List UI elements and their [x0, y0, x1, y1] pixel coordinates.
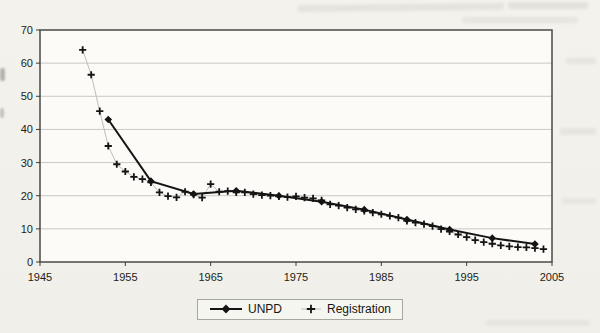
scanned-chart-page: 0102030405060701945195519651975198519952… — [0, 0, 600, 333]
x-tick-label: 1965 — [198, 271, 222, 283]
legend-item-unpd: UNPD — [209, 302, 282, 316]
chart-legend: UNPD Registration — [197, 299, 403, 320]
plot-area — [40, 30, 552, 262]
x-tick-label: 1985 — [369, 271, 393, 283]
unpd-line-diamond-icon — [209, 303, 243, 315]
x-tick-label: 1995 — [454, 271, 478, 283]
x-tick-label: 2005 — [540, 271, 564, 283]
y-tick-label: 10 — [21, 223, 33, 235]
legend-item-registration: Registration — [300, 302, 391, 316]
legend-label-unpd: UNPD — [248, 302, 282, 316]
y-tick-label: 40 — [21, 123, 33, 135]
y-tick-label: 30 — [21, 157, 33, 169]
y-tick-label: 70 — [21, 24, 33, 36]
plus-marker-icon — [300, 303, 322, 315]
x-tick-label: 1975 — [284, 271, 308, 283]
y-tick-label: 60 — [21, 57, 33, 69]
y-tick-label: 20 — [21, 190, 33, 202]
x-tick-label: 1945 — [28, 271, 52, 283]
x-tick-label: 1955 — [113, 271, 137, 283]
line-chart: 0102030405060701945195519651975198519952… — [0, 0, 600, 333]
y-tick-label: 50 — [21, 90, 33, 102]
legend-label-registration: Registration — [327, 302, 391, 316]
y-tick-label: 0 — [27, 256, 33, 268]
